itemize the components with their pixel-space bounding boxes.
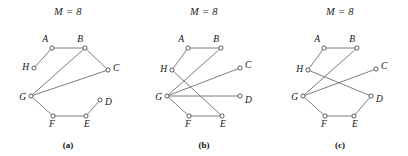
graph-edge [167,96,189,116]
graph-node-d[interactable] [238,94,242,98]
panel-b-graph: ABCDEFGH [136,24,272,134]
graph-node-d[interactable] [369,94,373,98]
graph-edge [303,48,357,96]
graph-edge [85,48,108,70]
graph-figure: M = 8 ABCDEFGH (a) M = 8 ABCDEFGH (b) M … [0,0,408,156]
graph-node-label-e: E [83,119,90,129]
graph-node-a[interactable] [186,46,190,50]
graph-node-label-e: E [351,119,358,129]
graph-node-label-b: B [213,34,219,44]
graph-node-label-f: F [48,119,55,129]
panel-a: M = 8 ABCDEFGH (a) [0,0,136,156]
graph-node-label-a: A [313,34,320,44]
graph-node-label-f: F [184,119,191,129]
graph-node-b[interactable] [355,46,359,50]
graph-node-f[interactable] [187,114,191,118]
graph-node-label-h: H [21,62,30,72]
graph-node-label-d: D [375,94,383,104]
edge-group [31,48,108,116]
graph-edge [31,48,85,96]
graph-node-e[interactable] [84,114,88,118]
graph-edge [303,69,376,96]
graph-node-e[interactable] [352,114,356,118]
graph-node-label-d: D [104,97,112,107]
graph-edge [34,48,52,68]
graph-node-h[interactable] [32,66,36,70]
panel-b-caption: (b) [136,140,272,150]
graph-node-label-b: B [349,34,355,44]
graph-node-label-f: F [320,119,327,129]
graph-edge [31,96,53,116]
graph-node-label-c: C [113,63,120,73]
graph-edge [172,70,222,116]
graph-node-c[interactable] [238,66,242,70]
panel-c-graph: ABCDEFGH [272,24,408,134]
graph-node-f[interactable] [323,114,327,118]
graph-node-h[interactable] [306,68,310,72]
graph-node-label-h: H [295,64,304,74]
panel-a-graph: ABCDEFGH [0,24,136,134]
graph-node-label-d: D [244,95,252,105]
graph-edge [354,96,371,116]
graph-edge [167,48,221,96]
graph-edge [172,48,188,70]
graph-node-label-e: E [219,119,226,129]
graph-node-label-g: G [19,92,26,102]
graph-node-label-h: H [159,64,168,74]
graph-node-f[interactable] [51,114,55,118]
graph-node-d[interactable] [98,98,102,102]
panel-a-caption: (a) [0,140,136,150]
panel-c: M = 8 ABCDEFGH (c) [272,0,408,156]
graph-node-g[interactable] [29,94,33,98]
graph-node-g[interactable] [165,94,169,98]
graph-node-a[interactable] [50,46,54,50]
graph-node-label-a: A [41,34,48,44]
graph-node-e[interactable] [220,114,224,118]
panel-b: M = 8 ABCDEFGH (b) [136,0,272,156]
graph-node-h[interactable] [170,68,174,72]
graph-node-label-g: G [155,92,162,102]
graph-node-b[interactable] [83,46,87,50]
panel-c-caption: (c) [272,140,408,150]
graph-node-label-a: A [177,34,184,44]
graph-node-b[interactable] [219,46,223,50]
panel-a-title: M = 8 [0,6,136,17]
graph-node-label-g: G [291,92,298,102]
panel-b-title: M = 8 [136,6,272,17]
graph-node-label-b: B [77,34,83,44]
graph-node-g[interactable] [301,94,305,98]
graph-node-a[interactable] [322,46,326,50]
graph-edge [167,68,240,96]
graph-edge [308,48,324,70]
graph-edge [31,70,108,96]
graph-edge [86,100,100,116]
panel-c-title: M = 8 [272,6,408,17]
graph-node-label-c: C [245,60,252,70]
graph-node-label-c: C [381,61,388,71]
edge-group [303,48,376,116]
graph-node-c[interactable] [106,68,110,72]
graph-edge [303,96,325,116]
graph-node-c[interactable] [374,67,378,71]
edge-group [167,48,240,116]
